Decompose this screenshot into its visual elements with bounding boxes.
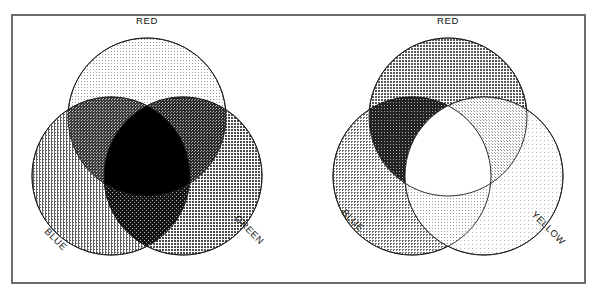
venn-diagram-canvas: REDBLUEGREEN REDBLUEYELLOW (0, 0, 598, 295)
subtractive-color-venn-label-red: RED (437, 15, 459, 26)
additive-color-venn-label-red: RED (136, 15, 158, 26)
color-venn-figure: REDBLUEGREEN REDBLUEYELLOW (0, 0, 598, 295)
